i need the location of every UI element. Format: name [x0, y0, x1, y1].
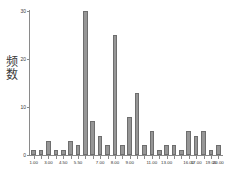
- bar: [150, 131, 155, 155]
- x-tick-mark: [181, 156, 182, 159]
- x-tick-mark: [108, 156, 109, 159]
- x-tick-label: 7.00: [96, 160, 105, 166]
- x-tick-mark: [41, 156, 42, 159]
- x-tick-mark: [204, 156, 205, 159]
- bar: [105, 145, 110, 155]
- bar: [172, 145, 177, 155]
- bar: [46, 141, 51, 155]
- x-tick-label: 13.00: [161, 160, 172, 166]
- histogram-chart: 频数 0102030 1.003.004.505.507.008.009.001…: [0, 0, 229, 182]
- bar: [216, 145, 221, 155]
- bar: [179, 150, 184, 155]
- x-tick-mark: [130, 156, 131, 159]
- x-tick-mark: [174, 156, 175, 159]
- bar: [39, 150, 44, 155]
- x-tick-mark: [71, 156, 72, 159]
- x-tick-mark: [34, 156, 35, 159]
- bar: [164, 145, 169, 155]
- bar: [194, 136, 199, 155]
- x-tick-label: 8.00: [111, 160, 120, 166]
- bar: [31, 150, 36, 155]
- bar-series: [30, 11, 222, 155]
- x-tick-mark: [167, 156, 168, 159]
- bar: [120, 145, 125, 155]
- x-tick-mark: [48, 156, 49, 159]
- x-tick-mark: [211, 156, 212, 159]
- x-tick-mark: [152, 156, 153, 159]
- bar: [83, 11, 88, 155]
- x-tick-label: 20.00: [213, 160, 224, 166]
- bar: [98, 136, 103, 155]
- x-tick-mark: [196, 156, 197, 159]
- x-tick-label: 11.00: [147, 160, 158, 166]
- x-tick-label: 9.00: [125, 160, 134, 166]
- y-axis-label: 频数: [2, 56, 22, 82]
- x-tick-mark: [63, 156, 64, 159]
- x-axis-tick-labels: 1.003.004.505.507.008.009.0011.0013.0016…: [30, 160, 222, 180]
- x-tick-mark: [122, 156, 123, 159]
- bar: [76, 145, 81, 155]
- x-tick-mark: [100, 156, 101, 159]
- x-tick-label: 5.50: [74, 160, 83, 166]
- x-tick-label: 1.00: [29, 160, 38, 166]
- bar: [142, 145, 147, 155]
- bar: [135, 93, 140, 155]
- bar: [61, 150, 66, 155]
- bar: [201, 131, 206, 155]
- x-tick-mark: [115, 156, 116, 159]
- x-tick-label: 17.00: [191, 160, 202, 166]
- x-tick-mark: [218, 156, 219, 159]
- x-tick-label: 4.50: [59, 160, 68, 166]
- x-tick-mark: [189, 156, 190, 159]
- x-tick-mark: [85, 156, 86, 159]
- bar: [90, 121, 95, 155]
- bar: [157, 150, 162, 155]
- x-tick-mark: [144, 156, 145, 159]
- x-tick-mark: [56, 156, 57, 159]
- x-tick-label: 3.00: [44, 160, 53, 166]
- x-tick-mark: [137, 156, 138, 159]
- x-tick-mark: [159, 156, 160, 159]
- y-axis-label-char: 数: [2, 69, 22, 82]
- plot-area: 0102030: [30, 11, 222, 155]
- bar: [113, 35, 118, 155]
- bar: [68, 141, 73, 155]
- bar: [209, 150, 214, 155]
- x-tick-mark: [78, 156, 79, 159]
- bar: [127, 117, 132, 155]
- x-tick-mark: [93, 156, 94, 159]
- bar: [54, 150, 59, 155]
- bar: [186, 131, 191, 155]
